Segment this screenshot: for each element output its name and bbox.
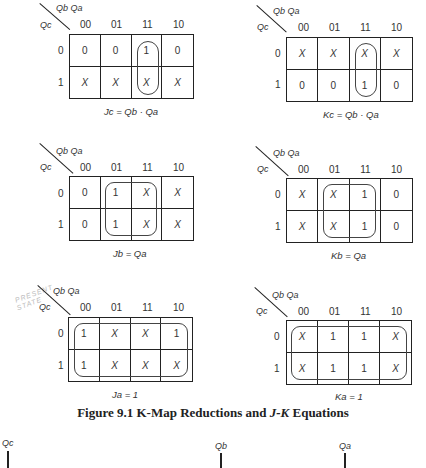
col-label: 00 xyxy=(70,162,101,173)
col-label: 10 xyxy=(381,306,412,317)
map-equation: Kb = Qa xyxy=(331,250,366,261)
row-var-label: Qc xyxy=(40,20,52,30)
row-label: 0 xyxy=(58,188,64,199)
map-equation: Ja = 1 xyxy=(112,389,138,400)
col-label: 00 xyxy=(288,164,319,175)
row-var-label: Qc xyxy=(40,162,52,172)
row-var-label: Qc xyxy=(257,164,269,174)
row-label: 1 xyxy=(275,221,281,232)
col-vars-label: Qb Qa xyxy=(53,286,80,296)
kmap-grid: 0 0 1 0 X X X X xyxy=(69,34,194,99)
row-label: 0 xyxy=(58,45,64,56)
col-vars-label: Qb Qa xyxy=(273,148,300,158)
col-label: 11 xyxy=(350,164,381,175)
row-label: 1 xyxy=(58,219,64,230)
col-label: 00 xyxy=(288,22,319,33)
kmap-cell: 0 xyxy=(162,35,193,67)
row-label: 0 xyxy=(275,189,281,200)
kmap-cell: 0 xyxy=(101,35,132,67)
row-label: 1 xyxy=(274,363,280,374)
kmap-cell: X xyxy=(162,177,193,209)
map-equation: Ka = 1 xyxy=(335,391,363,402)
col-label: 00 xyxy=(288,306,319,317)
signal-wire-qa xyxy=(344,453,346,468)
caption-text: Equations xyxy=(289,405,349,420)
row-label: 1 xyxy=(275,79,281,90)
row-var-label: Qc xyxy=(256,306,268,316)
row-var-label: Qc xyxy=(39,302,51,312)
kmap-cell: 0 xyxy=(70,177,101,209)
col-label: 01 xyxy=(319,164,350,175)
col-label: 10 xyxy=(163,19,194,30)
grouping-loop xyxy=(137,41,159,95)
col-vars-label: Qb Qa xyxy=(56,146,83,156)
kmap-cell: 0 xyxy=(287,70,318,102)
col-label: 01 xyxy=(319,22,350,33)
row-label: 0 xyxy=(58,328,64,339)
col-label: 10 xyxy=(163,162,194,173)
col-label: 10 xyxy=(163,302,194,313)
caption-jk: J-K xyxy=(270,405,290,420)
kmap-grid: X X X X 0 0 1 0 xyxy=(286,37,413,102)
grouping-loop xyxy=(355,43,377,97)
col-vars-label: Qb Qa xyxy=(56,3,83,13)
grouping-loop xyxy=(105,182,157,236)
kmap-cell: X xyxy=(381,38,412,70)
row-var-label: Qc xyxy=(257,22,269,32)
kmap-cell: 0 xyxy=(70,209,101,241)
signal-label-qc: Qc xyxy=(2,438,14,448)
kmap-cell: 0 xyxy=(381,70,412,102)
kmap-cell: X xyxy=(162,67,193,99)
signal-label-qa: Qa xyxy=(339,441,351,451)
kmap-cell: X xyxy=(287,38,318,70)
kmap-cell: X xyxy=(101,67,132,99)
col-vars-label: Qb Qa xyxy=(272,290,299,300)
col-label: 01 xyxy=(319,306,350,317)
col-label: 11 xyxy=(350,306,381,317)
kmap-cell: 0 xyxy=(381,179,412,211)
col-label: 11 xyxy=(132,162,163,173)
kmap-cell: X xyxy=(318,38,349,70)
col-label: 01 xyxy=(101,19,132,30)
row-label: 1 xyxy=(58,360,64,371)
figure-caption: Figure 9.1 K-Map Reductions and J-K Equa… xyxy=(0,405,426,421)
row-label: 0 xyxy=(274,331,280,342)
signal-wire-qc xyxy=(7,451,9,468)
col-label: 11 xyxy=(132,19,163,30)
kmap-cell: X xyxy=(70,67,101,99)
grouping-loop xyxy=(74,323,188,377)
kmap-cell: X xyxy=(162,209,193,241)
map-equation: Jc = Qb · Qa xyxy=(104,106,158,117)
signal-label-qb: Qb xyxy=(215,441,227,451)
caption-text: Figure 9.1 K-Map Reductions and xyxy=(77,405,270,420)
grouping-loop xyxy=(323,184,376,238)
kmap-cell: 0 xyxy=(70,35,101,67)
col-label: 01 xyxy=(101,162,132,173)
map-equation: Kc = Qb · Qa xyxy=(323,109,379,120)
kmap-cell: X xyxy=(287,211,318,243)
signal-wire-qb xyxy=(220,453,222,468)
map-equation: Jb = Qa xyxy=(113,248,147,259)
col-label: 11 xyxy=(350,22,381,33)
row-label: 0 xyxy=(275,48,281,59)
kmap-cell: 0 xyxy=(381,211,412,243)
grouping-loop xyxy=(291,326,407,380)
col-label: 00 xyxy=(70,19,101,30)
col-label: 11 xyxy=(132,302,163,313)
col-label: 10 xyxy=(381,164,412,175)
col-vars-label: Qb Qa xyxy=(273,6,300,16)
col-label: 00 xyxy=(70,302,101,313)
row-label: 1 xyxy=(58,77,64,88)
kmap-cell: X xyxy=(287,179,318,211)
col-label: 10 xyxy=(381,22,412,33)
col-label: 01 xyxy=(101,302,132,313)
kmap-cell: 0 xyxy=(318,70,349,102)
